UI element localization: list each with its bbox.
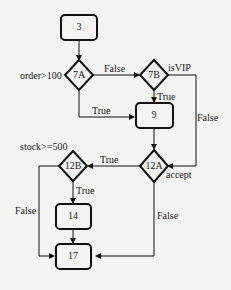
edge-label-12A-17: False (157, 210, 179, 221)
edge-label-7B-9: True (157, 91, 176, 102)
edge-label-12A-12B: True (100, 154, 119, 165)
condition-12B: stock>=500 (20, 141, 67, 152)
edge-label-7A-7B: False (104, 63, 126, 74)
node-7A-label: 7A (73, 69, 86, 80)
node-17-label: 17 (68, 250, 78, 261)
edge-label-7A-9: True (92, 105, 111, 116)
flowchart: 3 7A 7B 9 12A 12B 14 17 order>100 isVIP … (0, 0, 231, 290)
edge-12A-17 (96, 182, 154, 256)
node-12B-label: 12B (65, 160, 82, 171)
node-9-label: 9 (152, 109, 157, 120)
edge-label-12B-17: False (15, 205, 37, 216)
edge-label-12B-14: True (76, 185, 95, 196)
node-3-label: 3 (77, 21, 82, 32)
node-12A-label: 12A (145, 160, 163, 171)
edge-label-7B-12A: False (197, 112, 219, 123)
node-7B-label: 7B (148, 69, 160, 80)
condition-7B: isVIP (168, 62, 191, 73)
condition-7A: order>100 (20, 70, 62, 81)
condition-12A: accept (166, 169, 192, 180)
node-14-label: 14 (68, 210, 78, 221)
